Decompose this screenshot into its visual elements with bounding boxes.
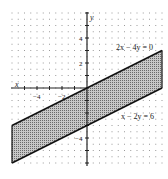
y-tick-label-neg4: −4 <box>75 135 83 143</box>
y-tick-label-2: 2 <box>79 60 83 68</box>
x-tick-label-neg4: −4 <box>33 93 41 101</box>
y-axis-label: y <box>89 13 94 22</box>
label-line-2x-minus-4y: 2x − 4y = 0 <box>116 43 153 52</box>
label-line-x-minus-2y: x − 2y = 6 <box>121 112 154 121</box>
x-tick-label-neg2: −2 <box>58 93 66 101</box>
graph-plot: y x −4 −2 4 2 −4 2x − 4y = 0 x − 2y = 6 <box>0 0 168 179</box>
y-tick-label-4: 4 <box>79 35 83 43</box>
x-axis-label: x <box>14 80 19 89</box>
